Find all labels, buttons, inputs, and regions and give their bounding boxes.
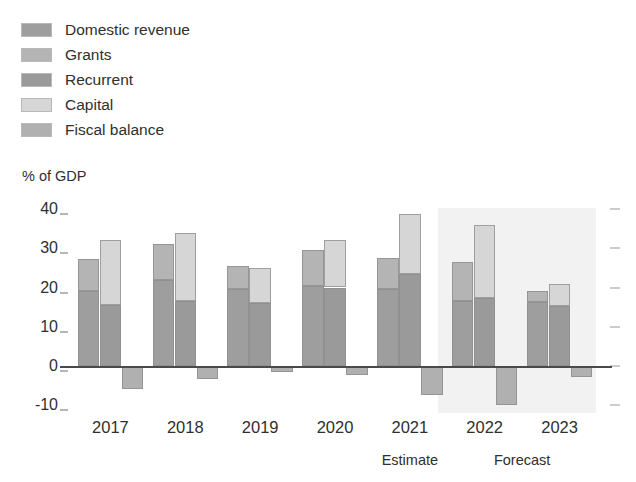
x-axis-tick-label: 2023	[541, 418, 578, 437]
bar-domestic-revenue	[302, 286, 324, 366]
y-axis-tick-mark	[60, 410, 68, 411]
bar-grants	[302, 250, 324, 286]
bar-capital	[474, 225, 496, 298]
y-axis-tick-mark	[60, 253, 68, 254]
x-axis-tick-label: 2017	[92, 418, 129, 437]
bar-fiscal-balance	[496, 366, 518, 405]
x-axis-tick-label: 2022	[466, 418, 503, 437]
bar-capital	[100, 240, 122, 305]
bar-grants	[227, 266, 249, 289]
x-axis-tick-label: 2018	[167, 418, 204, 437]
bar-recurrent	[324, 288, 346, 367]
right-axis-tick-mark	[610, 287, 620, 288]
y-axis-tick-label: 10	[40, 318, 58, 336]
scenario-label: Forecast	[494, 452, 550, 468]
right-axis-tick-mark	[610, 248, 620, 249]
bar-grants	[78, 259, 100, 292]
y-axis-tick-label: 0	[49, 357, 58, 375]
y-axis-tick-mark	[60, 371, 68, 372]
bar-recurrent	[474, 298, 496, 366]
bar-chart: 403020100-10 201720182019202020212022202…	[0, 0, 636, 482]
bar-grants	[153, 244, 175, 279]
bar-recurrent	[100, 305, 122, 366]
bar-domestic-revenue	[452, 301, 474, 366]
y-axis-tick-label: 40	[40, 200, 58, 218]
x-axis-tick-label: 2021	[391, 418, 428, 437]
bar-domestic-revenue	[78, 291, 100, 366]
y-axis-tick-label: 20	[40, 279, 58, 297]
y-axis-tick-label: 30	[40, 239, 58, 257]
x-axis-tick-label: 2020	[317, 418, 354, 437]
bar-fiscal-balance	[122, 366, 144, 389]
bar-domestic-revenue	[153, 280, 175, 366]
zero-baseline	[60, 366, 612, 368]
bar-recurrent	[399, 274, 421, 366]
scenario-label: Estimate	[382, 452, 438, 468]
bar-fiscal-balance	[421, 366, 443, 395]
y-axis-tick-label: -10	[35, 396, 58, 414]
bar-domestic-revenue	[227, 289, 249, 366]
right-axis-tick-mark	[610, 326, 620, 327]
bar-capital	[175, 233, 197, 301]
bar-capital	[549, 284, 571, 306]
bar-grants	[377, 258, 399, 289]
bar-domestic-revenue	[377, 289, 399, 366]
bar-capital	[249, 268, 271, 303]
bar-recurrent	[249, 303, 271, 366]
bar-grants	[452, 262, 474, 301]
x-axis-tick-label: 2019	[242, 418, 279, 437]
bar-recurrent	[549, 306, 571, 366]
right-axis-tick-mark	[610, 209, 620, 210]
y-axis-tick-mark	[60, 214, 68, 215]
y-axis-tick-mark	[60, 292, 68, 293]
bar-domestic-revenue	[527, 302, 549, 366]
bar-grants	[527, 291, 549, 302]
right-axis-tick-mark	[610, 405, 620, 406]
bar-recurrent	[175, 301, 197, 366]
bar-capital	[399, 214, 421, 274]
y-axis-tick-mark	[60, 331, 68, 332]
bar-capital	[324, 240, 346, 287]
